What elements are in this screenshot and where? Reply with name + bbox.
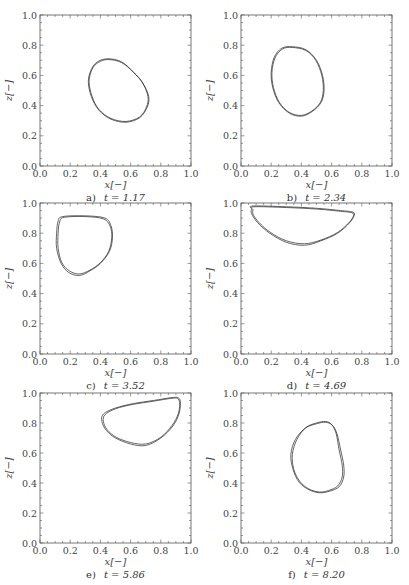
y-tick-label: 0.4 [223,100,238,111]
x-axis-label: x[−] [306,179,328,190]
x-axis-label: x[−] [105,367,127,378]
caption-time: t = 1.17 [104,192,146,203]
caption-letter: b) [287,192,297,203]
y-tick-label: 1.0 [223,198,238,209]
y-tick-label: 0.8 [223,228,238,239]
y-axis-label: z[−] [3,457,14,480]
interface-curve-2 [251,207,354,244]
x-tick-label: 1.0 [384,168,399,179]
y-tick-label: 0.8 [22,40,37,51]
x-tick-label: 1.0 [183,545,198,556]
y-tick-label: 1.0 [223,10,238,21]
y-tick-label: 0.4 [223,478,238,489]
y-tick-label: 0.6 [22,70,37,81]
x-tick-label: 1.0 [384,545,399,556]
figure-canvas: 0.00.20.40.60.81.00.00.20.40.60.81.0x[−]… [0,0,409,585]
x-tick-label: 0.4 [93,168,108,179]
y-tick-label: 0.6 [223,70,238,81]
x-tick-label: 0.2 [63,545,78,556]
y-tick-label: 1.0 [223,388,238,399]
y-tick-label: 0.0 [223,349,238,360]
x-tick-label: 0.6 [123,168,138,179]
y-tick-label: 0.6 [22,258,37,269]
panel-caption: f)t = 8.20 [288,569,345,580]
y-axis-label: z[−] [204,457,215,480]
caption-time: t = 4.69 [305,380,347,391]
plot-frame [241,393,392,543]
x-axis-label: x[−] [105,556,127,567]
panel-caption: d)t = 4.69 [287,380,347,391]
y-tick-label: 1.0 [22,198,37,209]
panel-c: 0.00.20.40.60.81.00.00.20.40.60.81.0x[−]… [3,198,199,392]
x-tick-label: 0.2 [63,356,78,367]
interface-curve-1 [250,206,354,245]
x-tick-label: 0.8 [153,356,168,367]
y-axis-label: z[−] [204,80,215,103]
panel-f: 0.00.20.40.60.81.00.00.20.40.60.81.0x[−]… [204,388,400,581]
y-tick-label: 0.2 [22,508,37,519]
y-tick-label: 0.4 [223,288,238,299]
interface-curve-2 [58,216,112,274]
x-axis-label: x[−] [306,367,328,378]
y-tick-label: 0.4 [22,100,37,111]
panel-caption: a)t = 1.17 [86,192,146,203]
y-tick-label: 0.0 [223,161,238,172]
panel-caption: e)t = 5.86 [86,569,145,580]
panel-caption: c)t = 3.52 [86,380,145,391]
y-tick-label: 0.8 [22,418,37,429]
panel-a: 0.00.20.40.60.81.00.00.20.40.60.81.0x[−]… [3,10,199,204]
x-tick-label: 0.2 [264,356,279,367]
plot-frame [40,15,191,166]
y-tick-label: 0.2 [22,318,37,329]
caption-letter: c) [86,380,96,391]
x-tick-label: 1.0 [384,356,399,367]
x-tick-label: 0.6 [123,356,138,367]
x-tick-label: 0.4 [294,356,309,367]
x-tick-label: 0.4 [93,545,108,556]
x-tick-label: 0.4 [294,168,309,179]
y-tick-label: 0.6 [22,448,37,459]
caption-time: t = 8.20 [304,569,346,580]
x-tick-label: 1.0 [183,168,198,179]
plot-frame [241,15,392,166]
y-axis-label: z[−] [3,80,14,103]
plot-frame [241,203,392,354]
y-tick-label: 1.0 [22,388,37,399]
plot-frame [40,203,191,354]
x-tick-label: 0.4 [294,545,309,556]
caption-letter: d) [287,380,297,391]
panel-d: 0.00.20.40.60.81.00.00.20.40.60.81.0x[−]… [204,198,400,392]
x-tick-label: 0.6 [324,545,339,556]
x-axis-label: x[−] [105,179,127,190]
x-tick-label: 0.8 [354,356,369,367]
caption-letter: f) [288,569,296,580]
interface-curve-2 [89,60,148,122]
y-tick-label: 0.2 [223,318,238,329]
x-tick-label: 0.8 [354,545,369,556]
x-tick-label: 0.6 [123,545,138,556]
y-tick-label: 0.2 [22,130,37,141]
y-tick-label: 0.4 [22,478,37,489]
plot-frame [40,393,191,543]
y-tick-label: 0.2 [223,508,238,519]
x-tick-label: 0.8 [153,545,168,556]
x-axis-label: x[−] [306,556,328,567]
x-tick-label: 0.2 [264,545,279,556]
panel-caption: b)t = 2.34 [287,192,346,203]
y-tick-label: 0.4 [22,288,37,299]
panel-e: 0.00.20.40.60.81.00.00.20.40.60.81.0x[−]… [3,388,199,581]
x-tick-label: 0.6 [324,168,339,179]
y-tick-label: 0.6 [223,258,238,269]
interface-curve-1 [88,59,149,122]
y-axis-label: z[−] [3,268,14,291]
y-tick-label: 0.0 [223,538,238,549]
x-tick-label: 0.2 [264,168,279,179]
y-tick-label: 0.2 [223,130,238,141]
x-tick-label: 0.2 [63,168,78,179]
caption-letter: a) [86,192,96,203]
y-tick-label: 0.6 [223,448,238,459]
y-tick-label: 0.8 [223,418,238,429]
x-tick-label: 0.8 [354,168,369,179]
y-tick-label: 0.0 [22,349,37,360]
y-tick-label: 0.0 [22,161,37,172]
